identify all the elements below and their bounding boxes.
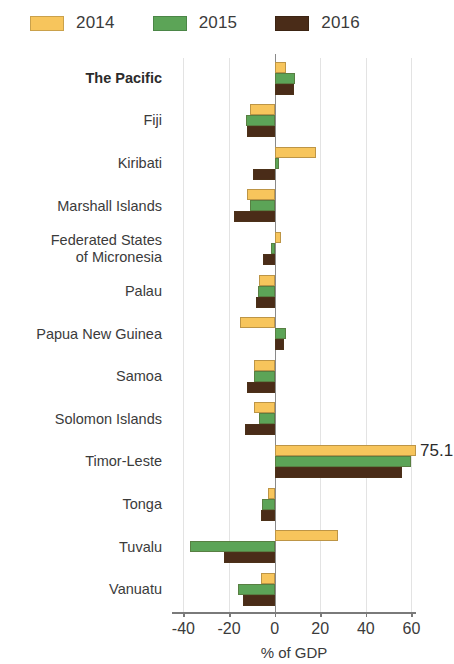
category-label-timor-leste: Timor-Leste [0, 453, 162, 470]
category-label-the-pacific: The Pacific [0, 70, 162, 87]
bar-2016-samoa [247, 382, 274, 393]
bar-2016-tonga [261, 510, 275, 521]
bar-2015-marshall-islands [250, 200, 275, 211]
bar-2015-the-pacific [275, 73, 296, 84]
bar-2014-marshall-islands [247, 189, 274, 200]
legend-label-2014: 2014 [76, 13, 115, 33]
bar-2015-federated-states-of-micronesia [271, 243, 274, 254]
x-tick--20 [229, 612, 231, 617]
bar-2015-tuvalu [190, 541, 274, 552]
category-label-kiribati: Kiribati [0, 155, 162, 172]
legend-swatch-2015 [153, 16, 187, 31]
bar-2015-palau [258, 286, 275, 297]
bar-2016-palau [256, 297, 274, 308]
plot-area [172, 58, 416, 612]
category-label-fiji: Fiji [0, 112, 162, 129]
bar-2015-vanuatu [238, 584, 274, 595]
legend-entry-2016[interactable]: 2016 [275, 13, 360, 33]
bar-2014-samoa [254, 360, 275, 371]
x-tick-label-60: 60 [381, 620, 441, 638]
category-label-tonga: Tonga [0, 496, 162, 513]
bar-group-fiji [172, 101, 416, 144]
bar-2015-papua-new-guinea [275, 328, 286, 339]
bar-group-the-pacific [172, 58, 416, 101]
category-axis-labels: The PacificFijiKiribatiMarshall IslandsF… [0, 58, 168, 612]
chart-area: The PacificFijiKiribatiMarshall IslandsF… [0, 46, 454, 664]
bar-2016-tuvalu [224, 552, 274, 563]
bar-2014-fiji [250, 104, 275, 115]
category-label-palau: Palau [0, 283, 162, 300]
bar-group-vanuatu [172, 569, 416, 612]
x-tick--40 [183, 612, 185, 617]
x-axis-line [172, 612, 416, 614]
bar-2014-solomon-islands [254, 402, 275, 413]
bar-2016-federated-states-of-micronesia [263, 254, 274, 265]
bar-group-kiribati [172, 143, 416, 186]
bar-group-tonga [172, 484, 416, 527]
legend-label-2016: 2016 [321, 13, 360, 33]
category-label-solomon-islands: Solomon Islands [0, 411, 162, 428]
legend-swatch-2016 [275, 16, 309, 31]
category-label-marshall-islands: Marshall Islands [0, 198, 162, 215]
chart-legend: 201420152016 [0, 0, 454, 46]
legend-entry-2015[interactable]: 2015 [153, 13, 238, 33]
bar-group-federated-states-of-micronesia [172, 228, 416, 271]
bar-2016-marshall-islands [234, 211, 275, 222]
bar-group-papua-new-guinea [172, 314, 416, 357]
category-label-papua-new-guinea: Papua New Guinea [0, 326, 162, 343]
bar-2014-federated-states-of-micronesia [275, 232, 282, 243]
bar-2016-timor-leste [275, 467, 403, 478]
bar-2016-solomon-islands [245, 424, 275, 435]
bar-2014-tuvalu [275, 530, 339, 541]
category-label-samoa: Samoa [0, 368, 162, 385]
x-tick-0 [275, 612, 277, 617]
bar-2014-the-pacific [275, 62, 286, 73]
bar-2016-vanuatu [243, 595, 275, 606]
bar-2014-vanuatu [261, 573, 275, 584]
category-label-federated-states-of-micronesia: Federated Statesof Micronesia [0, 232, 162, 266]
bar-2016-kiribati [253, 169, 275, 180]
x-tick-60 [411, 612, 413, 617]
bar-2016-fiji [247, 126, 274, 137]
bar-2014-palau [259, 275, 275, 286]
bar-2014-kiribati [275, 147, 316, 158]
bar-group-samoa [172, 356, 416, 399]
bar-2016-papua-new-guinea [275, 339, 284, 350]
bar-2015-samoa [254, 371, 275, 382]
bar-group-tuvalu [172, 527, 416, 570]
category-label-tuvalu: Tuvalu [0, 539, 162, 556]
bar-2015-tonga [262, 499, 275, 510]
x-tick-40 [366, 612, 368, 617]
bar-2015-fiji [246, 115, 275, 126]
value-annotation-timor-leste: 75.1 [420, 441, 453, 461]
x-tick-20 [320, 612, 322, 617]
bar-group-marshall-islands [172, 186, 416, 229]
legend-entry-2014[interactable]: 2014 [30, 13, 115, 33]
bar-group-timor-leste [172, 442, 416, 485]
bar-2015-solomon-islands [259, 413, 275, 424]
bar-2015-timor-leste [275, 456, 412, 467]
bar-2016-the-pacific [275, 84, 294, 95]
legend-swatch-2014 [30, 16, 64, 31]
bar-2014-papua-new-guinea [240, 317, 274, 328]
bar-2014-timor-leste [275, 445, 416, 456]
bar-group-solomon-islands [172, 399, 416, 442]
bar-group-palau [172, 271, 416, 314]
x-axis-title: % of GDP [172, 644, 416, 661]
bar-2014-tonga [268, 488, 275, 499]
legend-label-2015: 2015 [199, 13, 238, 33]
bar-2015-kiribati [275, 158, 280, 169]
category-label-vanuatu: Vanuatu [0, 581, 162, 598]
